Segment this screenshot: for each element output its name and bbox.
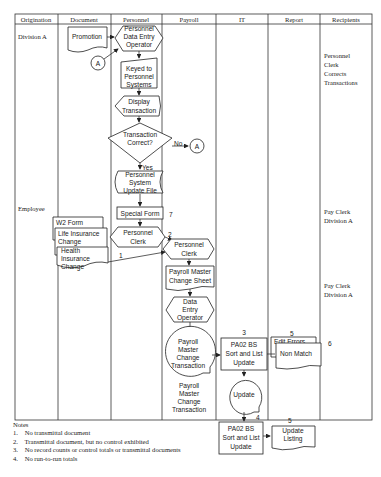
svg-text:Transaction: Transaction: [171, 362, 206, 369]
svg-text:Change: Change: [61, 263, 84, 271]
column-header-document: Document: [70, 16, 98, 23]
note-item: 1. No transmittal document: [13, 429, 181, 437]
svg-text:W2 Form: W2 Form: [56, 219, 84, 226]
svg-text:A: A: [195, 143, 200, 150]
svg-text:Personnel: Personnel: [174, 241, 204, 248]
recipient-pay-clerk-2: Pay Clerk Division A: [324, 282, 353, 298]
svg-text:Payroll Master: Payroll Master: [169, 268, 212, 276]
svg-text:Payroll: Payroll: [178, 338, 199, 346]
recipient-pay-clerk-1: Pay Clerk Division A: [324, 208, 353, 224]
arrow-note-1: 1: [119, 252, 123, 259]
svg-text:Listing: Listing: [283, 435, 302, 443]
pa02-bs-sort-and-list-update-1: PA02 BS Sort and List Update: [221, 338, 267, 370]
svg-text:Promotion: Promotion: [72, 33, 102, 40]
svg-text:Life Insurance: Life Insurance: [58, 230, 100, 237]
column-header-payroll: Payroll: [179, 16, 198, 23]
payroll-personnel-clerk: Personnel Clerk: [163, 239, 214, 259]
report-note-6: 6: [328, 340, 332, 347]
svg-text:Transaction: Transaction: [123, 131, 158, 138]
svg-text:Clerk: Clerk: [130, 238, 146, 245]
special-form-note: 7: [169, 211, 173, 218]
non-match-document: Non Match: [276, 343, 321, 369]
notes-title: Notes: [13, 421, 181, 429]
svg-text:Entry: Entry: [182, 306, 198, 314]
pa02-bs-sort-and-list-update-2: PA02 BS Sort and List Update: [219, 422, 263, 454]
svg-text:Operator: Operator: [126, 41, 153, 49]
svg-text:Payroll: Payroll: [179, 382, 200, 390]
payroll-data-entry-operator: Data Entry Operator: [166, 297, 214, 322]
svg-text:Personnel: Personnel: [324, 52, 350, 59]
payroll-master-change-transaction-tape: Payroll Master Change Transaction: [166, 326, 216, 376]
note-item: 4. No run-to-run totals: [13, 455, 181, 463]
svg-text:Keyed to: Keyed to: [126, 65, 152, 73]
svg-text:Update: Update: [282, 427, 304, 435]
svg-text:Operator: Operator: [177, 314, 204, 322]
column-header-recipients: Recipients: [332, 16, 360, 23]
svg-text:Master: Master: [178, 346, 199, 353]
svg-text:Change: Change: [177, 398, 200, 406]
yes-label: Yes: [142, 164, 153, 171]
special-form: Special Form: [117, 207, 163, 219]
svg-text:Division A: Division A: [324, 217, 353, 224]
personnel-data-entry-operator: Personnel Data Entry Operator: [115, 25, 163, 51]
update-listing-note: 5: [288, 417, 292, 424]
svg-text:Division A: Division A: [324, 291, 353, 298]
svg-text:Systems: Systems: [126, 81, 152, 89]
recipient-personnel-clerk: Personnel Clerk Corrects Transactions: [324, 52, 358, 86]
column-header-report: Report: [285, 16, 303, 23]
personnel-clerk: Personnel Clerk: [110, 227, 165, 247]
column-header-personnel: Personnel: [123, 16, 149, 23]
personnel-system-update-file: Personnel System Update File: [115, 171, 163, 195]
connector-a: A: [91, 56, 105, 70]
svg-text:PA02 BS: PA02 BS: [231, 341, 258, 348]
svg-text:Corrects: Corrects: [324, 70, 347, 77]
svg-text:Display: Display: [128, 98, 150, 106]
svg-text:Personnel: Personnel: [124, 25, 154, 32]
keyed-to-personnel-systems: Keyed to Personnel Systems: [121, 58, 157, 89]
svg-text:Change: Change: [58, 238, 81, 246]
svg-text:Personnel: Personnel: [124, 73, 154, 80]
update-tape-note: 4: [256, 414, 260, 421]
origination-division-a: Division A: [18, 33, 47, 40]
svg-text:Transactions: Transactions: [324, 79, 358, 86]
pa02-1-note: 3: [242, 329, 246, 336]
notes-section: Notes 1. No transmittal document 2. Tran…: [13, 421, 181, 463]
svg-text:Change: Change: [176, 354, 199, 362]
no-label: No: [174, 140, 183, 147]
payroll-master-change-sheet: Payroll Master Change Sheet: [166, 266, 214, 291]
update-listing-document: Update Listing: [272, 426, 315, 450]
origination-employee: Employee: [18, 205, 45, 212]
svg-text:Change Sheet: Change Sheet: [169, 277, 211, 285]
svg-text:Pay Clerk: Pay Clerk: [324, 282, 351, 289]
svg-text:Personnel: Personnel: [123, 229, 153, 236]
svg-text:Update File: Update File: [123, 187, 157, 195]
svg-text:Non Match: Non Match: [280, 350, 312, 357]
svg-text:Clerk: Clerk: [324, 61, 339, 68]
edit-errors-note: 5: [290, 330, 294, 337]
display-transaction: Display Transaction: [115, 96, 161, 116]
svg-text:Health: Health: [61, 247, 80, 254]
update-tape: Update: [230, 380, 262, 414]
svg-text:Transaction: Transaction: [122, 107, 157, 114]
svg-text:Data: Data: [183, 298, 197, 305]
svg-text:Update: Update: [233, 359, 255, 367]
svg-text:Insurance: Insurance: [61, 255, 90, 262]
svg-text:Update: Update: [233, 391, 255, 399]
flowchart: Origination Document Personnel Payroll I…: [0, 0, 381, 477]
health-insurance-document: Health Insurance Change: [57, 247, 108, 271]
svg-text:Sort and List: Sort and List: [222, 434, 259, 441]
svg-text:Transaction: Transaction: [172, 406, 207, 413]
connector-a-2: A: [190, 139, 204, 153]
svg-text:Special Form: Special Form: [121, 210, 160, 218]
svg-text:Clerk: Clerk: [181, 250, 197, 257]
svg-text:System: System: [129, 179, 151, 187]
note-item: 2. Transmittal document, but no control …: [13, 438, 181, 446]
column-header-it: IT: [239, 16, 245, 23]
svg-text:Update: Update: [230, 443, 252, 451]
svg-text:Correct?: Correct?: [127, 139, 153, 146]
svg-text:Personnel: Personnel: [125, 171, 155, 178]
svg-text:Sort and List: Sort and List: [225, 350, 262, 357]
personnel-clerk-note: 2: [168, 231, 172, 238]
svg-text:A: A: [96, 60, 101, 67]
note-item: 3. No record counts or control totals or…: [13, 446, 181, 454]
